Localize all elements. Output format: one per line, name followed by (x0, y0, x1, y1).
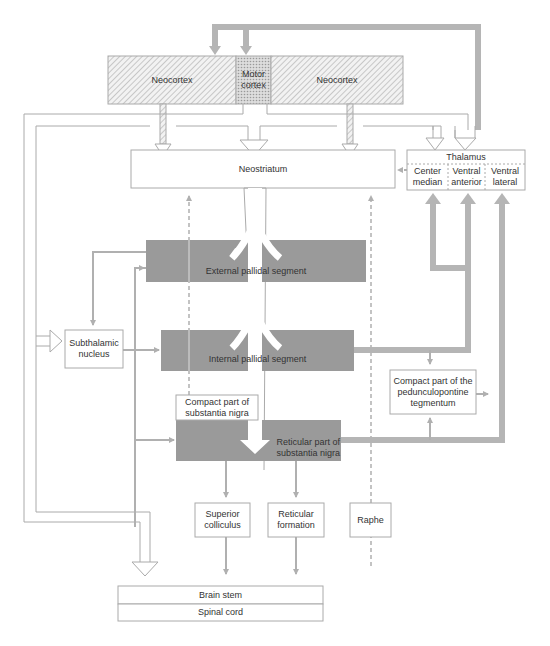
pedunculopontine-label: Compact part of the pedunculopontine teg… (390, 370, 476, 414)
arrowhead (240, 46, 252, 55)
neocortex-left-label: Neocortex (108, 56, 236, 104)
ventral-lateral-label: Ventral lateral (485, 164, 525, 190)
thalamus-label: Thalamus (407, 150, 525, 164)
compact-sn-label: Compact part of substantia nigra (176, 395, 258, 420)
spinal-cord-label: Spinal cord (118, 604, 323, 621)
center-median-label: Center median (407, 164, 448, 190)
subthalamic-label: Subthalamic nucleus (65, 330, 123, 368)
reticular-sn-label: Reticular part of substantia nigra (262, 436, 340, 460)
reticular-formation-label: Reticular formation (268, 503, 324, 537)
arrowhead (209, 46, 221, 55)
internal-pallidal-label: Internal pallidal segment (161, 350, 354, 368)
brain-stem-label: Brain stem (118, 586, 323, 604)
raphe-label: Raphe (350, 503, 391, 537)
motor-cortex-label: Motor cortex (236, 56, 271, 104)
neostriatum-label: Neostriatum (131, 150, 395, 188)
neocortex-right-label: Neocortex (271, 56, 403, 104)
external-pallidal-label: External pallidal segment (146, 262, 366, 280)
ventral-anterior-label: Ventral anterior (448, 164, 485, 190)
superior-colliculus-label: Superior colliculus (195, 503, 250, 537)
